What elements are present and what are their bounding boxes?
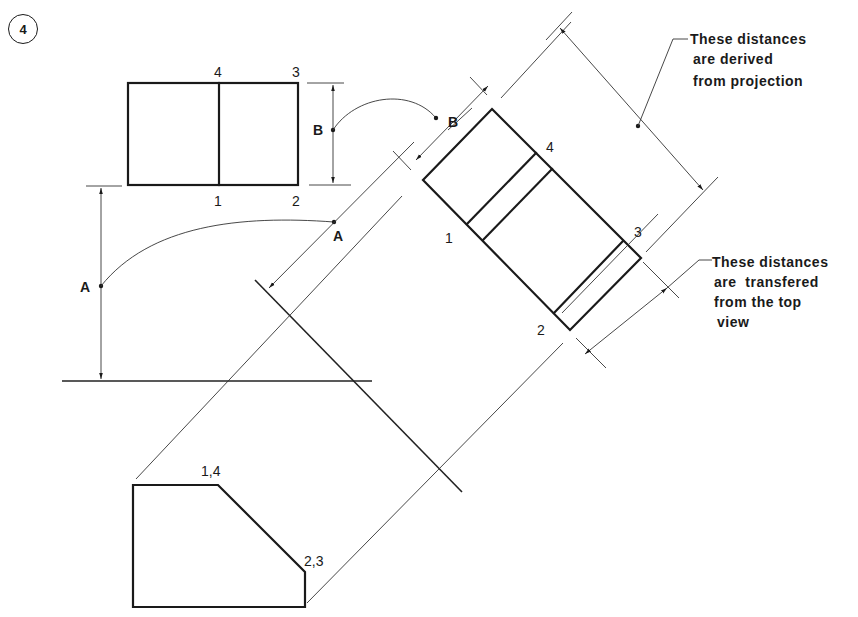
front-view-outline [133,485,305,607]
transfer-extension-2 [576,338,606,368]
top-label-4: 4 [214,64,222,80]
annotation-transferred-line-1: These distances [712,252,828,272]
transfer-arc-b [333,99,436,130]
annotation-transferred-line-4: view [712,312,828,332]
transfer-extension-mid [562,214,658,313]
transfer-dimension-line [585,288,667,354]
annotation-derived: These distances are derived from project… [690,29,806,91]
projection-line-14 [136,196,402,479]
reference-line-auxiliary [255,280,462,492]
aux-b-label: B [448,114,458,130]
a-transfer-line [269,142,414,288]
transfer-leader [667,260,712,288]
projection-line-23 [307,343,563,603]
derived-leader [638,39,688,126]
auxiliary-edge-3-2 [554,241,623,313]
b-extension-2 [470,77,487,95]
top-label-1: 1 [214,193,222,209]
top-label-2: 2 [292,193,300,209]
auxiliary-view [423,109,641,330]
aux-a-label: A [333,228,343,244]
auxiliary-edge-inner [483,169,552,240]
top-b-label: B [313,122,323,138]
annotation-derived-line-3: from projection [690,71,806,91]
aux-label-4: 4 [546,139,554,155]
auxiliary-view-outline [423,109,641,330]
annotation-transferred-line-2: are transfered [712,272,828,292]
annotation-transferred: These distances are transfered from the … [712,252,828,332]
annotation-derived-line-1: These distances [690,29,806,49]
annotation-derived-line-2: are derived [690,49,806,69]
aux-label-1: 1 [445,230,453,246]
derived-extension-bottom [646,177,718,252]
top-view-outline [128,83,298,185]
front-a-label: A [80,279,90,295]
auxiliary-edge-4-1 [467,153,536,224]
transfer-arc-a [101,220,334,286]
projection-extension-top [501,22,571,98]
derived-extension-top [546,12,572,40]
aux-label-3: 3 [634,224,642,240]
annotation-transferred-line-3: from the top [712,292,828,312]
derived-dimension-line [560,28,703,190]
front-label-14: 1,4 [201,463,221,479]
front-label-23: 2,3 [304,553,324,569]
aux-label-2: 2 [537,322,545,338]
top-label-3: 3 [292,64,300,80]
